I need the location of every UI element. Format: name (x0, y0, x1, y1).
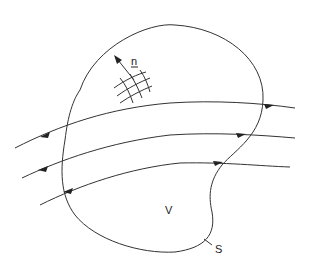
arrow-icon (236, 133, 246, 138)
surface-element-mesh (114, 70, 152, 103)
flow-line-3 (40, 163, 290, 205)
surface-label: S (215, 243, 222, 255)
volume-label: V (165, 204, 173, 216)
closed-surface-s (62, 25, 263, 252)
diagram-canvas: n V S (0, 0, 311, 267)
arrow-icon (38, 166, 48, 172)
normal-label: n (131, 55, 137, 67)
surface-leader-line (204, 239, 212, 245)
normal-arrow-icon (114, 55, 122, 64)
flow-line-1 (15, 102, 295, 148)
